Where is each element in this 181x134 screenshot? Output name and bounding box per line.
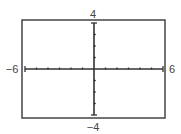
xmin-label: −6 [6, 64, 19, 75]
ymax-label: 4 [90, 9, 96, 20]
xmax-label: 6 [169, 64, 175, 75]
ymin-label: −4 [87, 122, 100, 133]
plot-area [0, 0, 181, 134]
